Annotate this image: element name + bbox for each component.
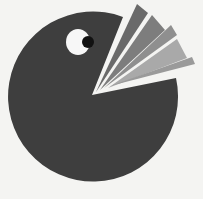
- pie-pacman-illustration: [0, 0, 203, 199]
- eye-pupil: [82, 36, 94, 48]
